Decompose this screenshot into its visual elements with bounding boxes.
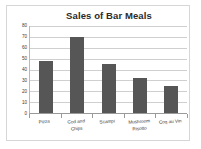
- y-tick-label: 30: [22, 79, 27, 84]
- x-tick: [29, 114, 30, 118]
- bar: [133, 78, 147, 113]
- bar: [164, 86, 178, 113]
- bar-slot: [124, 26, 155, 113]
- x-axis-label: Coq au Vin: [155, 118, 188, 143]
- x-axis-label: Cod and Chips: [60, 118, 93, 143]
- x-axis-labels: PizzaCod and ChipsScampiMushroom Risotto…: [29, 119, 187, 142]
- y-tick-label: 60: [22, 46, 27, 51]
- bar-slot: [93, 26, 124, 113]
- bar-slot: [156, 26, 187, 113]
- bar: [102, 64, 116, 113]
- x-axis-label: Scampi: [91, 118, 124, 143]
- x-tick: [187, 114, 188, 118]
- x-axis-label: Mushroom Risotto: [123, 118, 156, 143]
- x-tick: [92, 114, 93, 118]
- chart-container: Sales of Bar Meals 80 70 60 50 40 30 20 …: [6, 5, 190, 141]
- chart-title: Sales of Bar Meals: [7, 10, 189, 21]
- x-axis-label: Pizza: [28, 118, 61, 143]
- plot-wrapper: 80 70 60 50 40 30 20 10 0 PizzaCod and C…: [7, 26, 191, 142]
- plot-area: [29, 26, 187, 114]
- y-axis: 80 70 60 50 40 30 20 10 0: [7, 26, 29, 114]
- y-tick-label: 50: [22, 57, 27, 62]
- y-tick-label: 0: [24, 112, 27, 117]
- y-tick-label: 40: [22, 68, 27, 73]
- y-tick-label: 70: [22, 35, 27, 40]
- x-tick: [155, 114, 156, 118]
- y-tick-label: 20: [22, 90, 27, 95]
- bar-slot: [30, 26, 61, 113]
- y-tick-label: 10: [22, 101, 27, 106]
- bar: [70, 37, 84, 113]
- bar-series: [30, 26, 187, 113]
- bar: [39, 61, 53, 113]
- y-tick-label: 80: [22, 24, 27, 29]
- x-tick: [61, 114, 62, 118]
- bar-slot: [61, 26, 92, 113]
- x-tick: [124, 114, 125, 118]
